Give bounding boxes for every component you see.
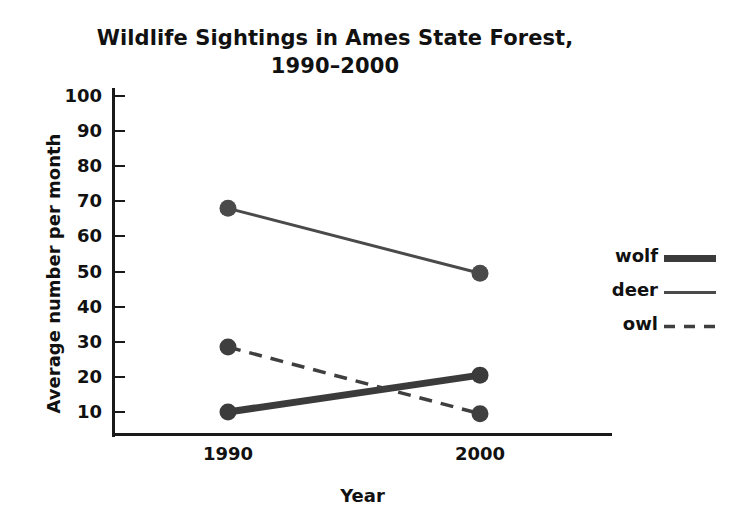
data-point-wolf-2000 <box>472 367 489 384</box>
data-point-deer-2000 <box>472 265 489 282</box>
chart-figure: Wildlife Sightings in Ames State Forest,… <box>0 0 738 521</box>
series-line-wolf <box>228 375 480 412</box>
legend-label-owl: owl <box>596 314 658 334</box>
legend-label-wolf: wolf <box>596 246 658 266</box>
legend: wolf deer owl <box>596 246 728 348</box>
data-point-owl-1990 <box>220 339 237 356</box>
series-deer <box>220 200 489 282</box>
series-wolf <box>220 367 489 421</box>
series-line-deer <box>228 208 480 273</box>
legend-entry-owl[interactable]: owl <box>596 314 728 348</box>
legend-entry-deer[interactable]: deer <box>596 280 728 314</box>
data-point-deer-1990 <box>220 200 237 217</box>
legend-swatch-owl <box>664 323 716 330</box>
legend-label-deer: deer <box>596 280 658 300</box>
legend-swatch-wolf <box>664 255 716 262</box>
legend-swatch-deer <box>664 289 716 296</box>
series-layer <box>220 200 489 422</box>
data-point-owl-2000 <box>472 405 489 422</box>
legend-entry-wolf[interactable]: wolf <box>596 246 728 280</box>
data-point-wolf-1990 <box>220 404 237 421</box>
